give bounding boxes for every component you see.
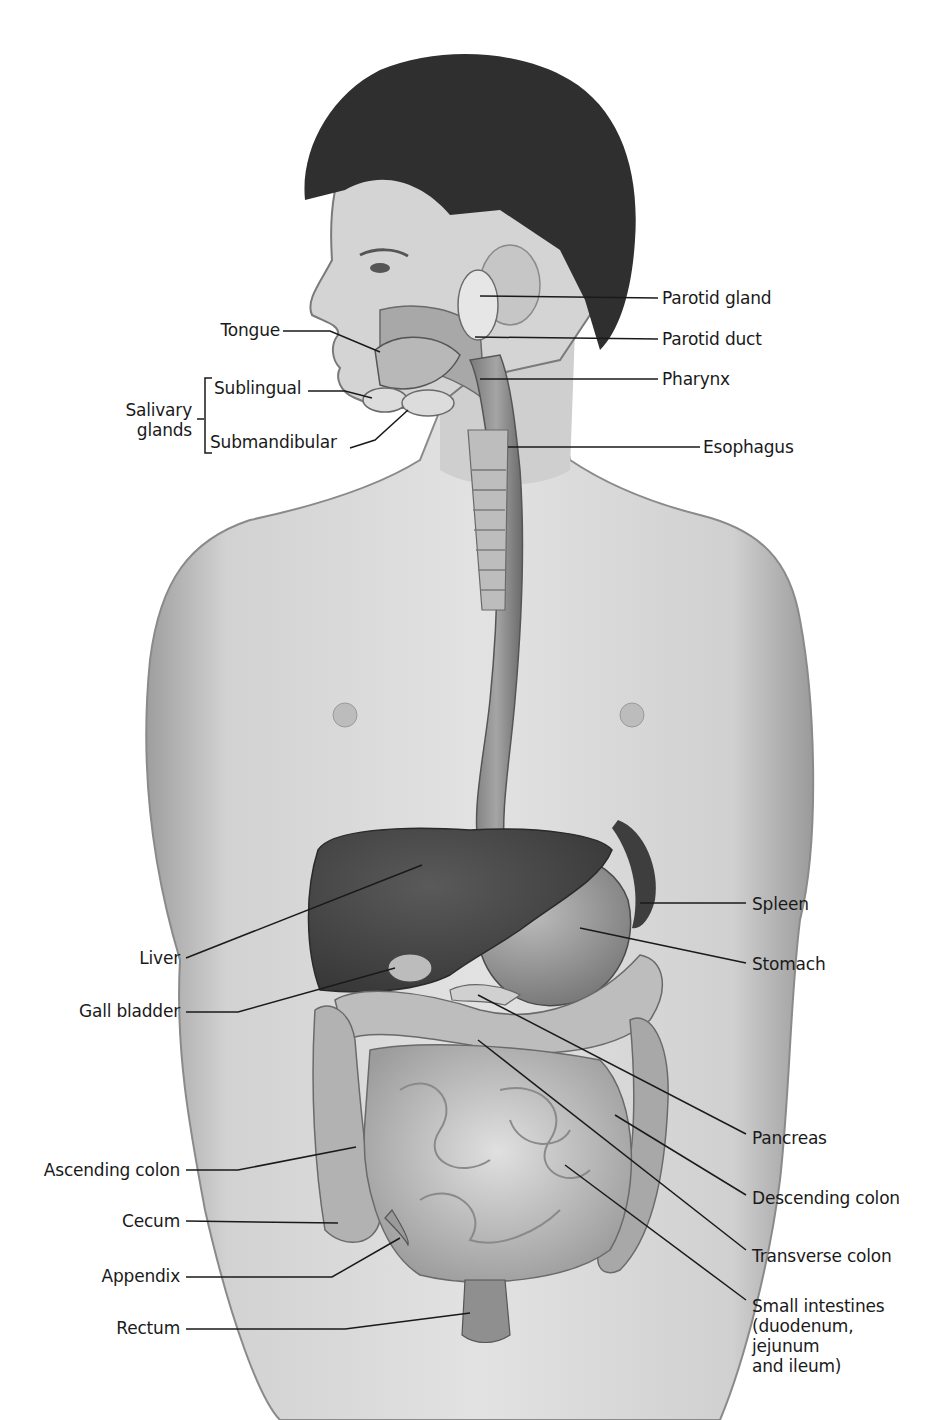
label-liver: Liver xyxy=(80,948,180,968)
label-rectum: Rectum xyxy=(60,1318,180,1338)
label-transverse-colon: Transverse colon xyxy=(752,1246,892,1266)
parotid-gland-shape xyxy=(458,270,498,340)
label-esophagus: Esophagus xyxy=(703,437,794,457)
label-salivary-glands: Salivary glands xyxy=(98,400,192,440)
label-pharynx: Pharynx xyxy=(662,369,730,389)
label-stomach: Stomach xyxy=(752,954,826,974)
label-ascending-colon: Ascending colon xyxy=(0,1160,180,1180)
rectum-shape xyxy=(462,1280,510,1343)
label-spleen: Spleen xyxy=(752,894,809,914)
label-parotid-gland: Parotid gland xyxy=(662,288,771,308)
label-descending-colon: Descending colon xyxy=(752,1188,900,1208)
label-appendix: Appendix xyxy=(60,1266,180,1286)
label-gall-bladder: Gall bladder xyxy=(30,1001,180,1021)
label-small-intestines: Small intestines (duodenum, jejunum and … xyxy=(752,1296,884,1376)
label-parotid-duct: Parotid duct xyxy=(662,329,762,349)
label-submandibular: Submandibular xyxy=(210,432,337,452)
label-sublingual: Sublingual xyxy=(214,378,301,398)
label-tongue: Tongue xyxy=(190,320,280,340)
label-cecum: Cecum xyxy=(60,1211,180,1231)
small-intestines-shape xyxy=(364,1045,631,1282)
label-pancreas: Pancreas xyxy=(752,1128,827,1148)
